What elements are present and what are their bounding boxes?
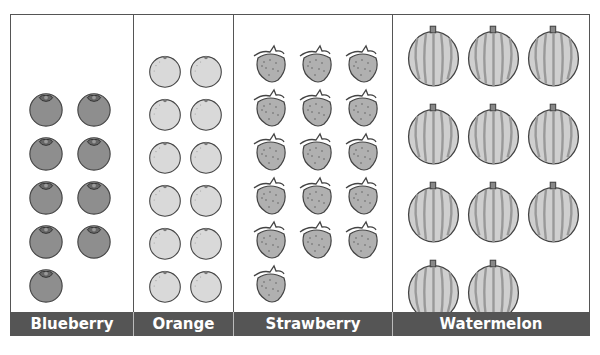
orange-icon bbox=[188, 225, 224, 261]
orange-icon bbox=[188, 53, 224, 89]
pictograph-chart: Blueberry Orange Strawberry Watermelon bbox=[10, 14, 590, 336]
blueberry-icon bbox=[75, 134, 113, 172]
orange-icon bbox=[147, 268, 183, 304]
orange-icon bbox=[147, 96, 183, 132]
strawberry-icon bbox=[342, 176, 382, 216]
category-label-bar: Blueberry Orange Strawberry Watermelon bbox=[11, 312, 589, 336]
blueberry-icon bbox=[75, 90, 113, 128]
blueberry-icon bbox=[27, 134, 65, 172]
strawberry-icon bbox=[296, 176, 336, 216]
strawberry-icon bbox=[250, 264, 290, 304]
blueberry-icon bbox=[27, 222, 65, 260]
strawberry-icon bbox=[250, 44, 290, 84]
column-watermelon bbox=[393, 15, 591, 312]
strawberry-icon bbox=[342, 44, 382, 84]
watermelon-icon bbox=[406, 179, 461, 244]
watermelon-icon bbox=[466, 101, 521, 166]
label-orange: Orange bbox=[134, 312, 234, 336]
watermelon-icon bbox=[466, 23, 521, 88]
blueberry-icon bbox=[75, 222, 113, 260]
column-orange bbox=[134, 15, 234, 312]
label-strawberry: Strawberry bbox=[234, 312, 393, 336]
orange-icon bbox=[188, 268, 224, 304]
blueberry-icon bbox=[27, 178, 65, 216]
watermelon-icon bbox=[406, 23, 461, 88]
column-strawberry bbox=[234, 15, 393, 312]
label-watermelon: Watermelon bbox=[393, 312, 589, 336]
strawberry-icon bbox=[296, 132, 336, 172]
strawberry-icon bbox=[342, 220, 382, 260]
orange-icon bbox=[147, 53, 183, 89]
strawberry-icon bbox=[250, 88, 290, 128]
orange-icon bbox=[147, 182, 183, 218]
strawberry-icon bbox=[296, 220, 336, 260]
strawberry-icon bbox=[296, 88, 336, 128]
orange-icon bbox=[188, 182, 224, 218]
blueberry-icon bbox=[27, 90, 65, 128]
blueberry-icon bbox=[27, 266, 65, 304]
strawberry-icon bbox=[342, 132, 382, 172]
watermelon-icon bbox=[466, 179, 521, 244]
watermelon-icon bbox=[526, 179, 581, 244]
watermelon-icon bbox=[526, 23, 581, 88]
watermelon-icon bbox=[526, 101, 581, 166]
strawberry-icon bbox=[296, 44, 336, 84]
strawberry-icon bbox=[250, 220, 290, 260]
orange-icon bbox=[147, 139, 183, 175]
orange-icon bbox=[147, 225, 183, 261]
orange-icon bbox=[188, 96, 224, 132]
blueberry-icon bbox=[75, 178, 113, 216]
strawberry-icon bbox=[250, 176, 290, 216]
orange-icon bbox=[188, 139, 224, 175]
watermelon-icon bbox=[406, 101, 461, 166]
column-blueberry bbox=[11, 15, 134, 312]
strawberry-icon bbox=[250, 132, 290, 172]
label-blueberry: Blueberry bbox=[11, 312, 134, 336]
strawberry-icon bbox=[342, 88, 382, 128]
